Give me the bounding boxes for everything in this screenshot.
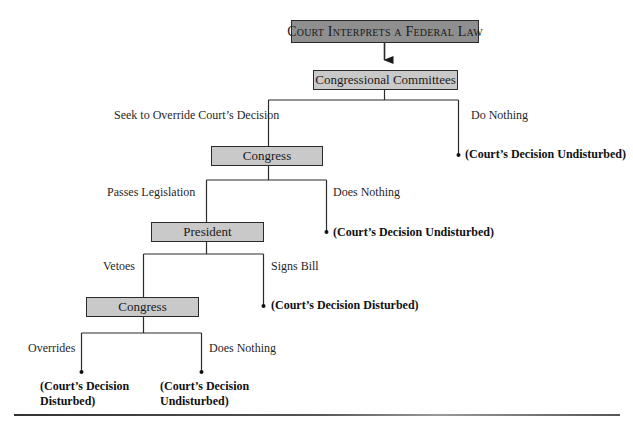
- outcome-undisturbed-3-line2: Undisturbed): [160, 394, 249, 409]
- bottom-rule-divider: [14, 414, 620, 416]
- outcome-undisturbed-2: (Court’s Decision Undisturbed): [333, 225, 494, 240]
- edge-label-does-nothing-2: Does Nothing: [209, 341, 276, 356]
- outcome-undisturbed-1: (Court’s Decision Undisturbed): [465, 147, 626, 162]
- flowchart: Court Interprets a Federal Law Congressi…: [0, 0, 633, 438]
- president-node-label: President: [183, 224, 231, 240]
- congress-node-box-2: Congress: [86, 297, 199, 317]
- president-node-box: President: [151, 222, 264, 242]
- connector-lines: [0, 0, 633, 438]
- outcome-disturbed-2: (Court’s Decision Disturbed): [40, 379, 129, 409]
- outcome-disturbed-1: (Court’s Decision Disturbed): [271, 298, 419, 313]
- root-node-label: Court Interprets a Federal Law: [287, 24, 483, 40]
- outcome-disturbed-2-line1: (Court’s Decision: [40, 379, 129, 394]
- congress-node-label-2: Congress: [118, 299, 166, 315]
- committees-node-label: Congressional Committees: [315, 72, 455, 88]
- committees-node-box: Congressional Committees: [313, 70, 458, 90]
- endpoint-dot: [80, 370, 84, 374]
- endpoint-dot: [457, 153, 461, 157]
- edge-label-vetoes: Vetoes: [103, 259, 135, 274]
- outcome-disturbed-2-line2: Disturbed): [40, 394, 129, 409]
- endpoint-dot: [262, 304, 266, 308]
- congress-node-box-1: Congress: [211, 146, 323, 166]
- endpoint-dot: [200, 370, 204, 374]
- endpoint-dot: [325, 230, 329, 234]
- edge-label-signs-bill: Signs Bill: [271, 259, 319, 274]
- outcome-undisturbed-3-line1: (Court’s Decision: [160, 379, 249, 394]
- congress-node-label-1: Congress: [243, 148, 291, 164]
- edge-label-seek-override: Seek to Override Court’s Decision: [114, 108, 279, 123]
- edge-label-overrides: Overrides: [28, 341, 75, 356]
- root-node-box: Court Interprets a Federal Law: [291, 20, 479, 43]
- edge-label-do-nothing: Do Nothing: [471, 108, 528, 123]
- edge-label-passes-legislation: Passes Legislation: [107, 185, 195, 200]
- edge-label-does-nothing-1: Does Nothing: [333, 185, 400, 200]
- outcome-undisturbed-3: (Court’s Decision Undisturbed): [160, 379, 249, 409]
